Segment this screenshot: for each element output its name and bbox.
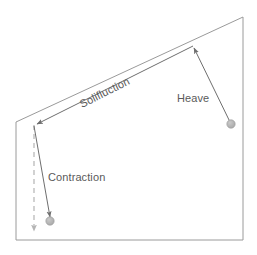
heave-vector bbox=[194, 48, 231, 124]
slope-cross-section bbox=[16, 17, 243, 240]
contraction-clast-marker bbox=[46, 217, 54, 225]
outline-slope-surface bbox=[16, 17, 243, 122]
heave-clast-marker bbox=[227, 120, 235, 128]
solifluction-label: Solifluction bbox=[78, 75, 132, 110]
heave-label: Heave bbox=[177, 92, 209, 104]
diagram-canvas: Solifluction Heave Contraction bbox=[0, 0, 257, 255]
slope-diagram-svg: Solifluction Heave Contraction bbox=[0, 0, 257, 255]
contraction-label: Contraction bbox=[48, 171, 105, 183]
